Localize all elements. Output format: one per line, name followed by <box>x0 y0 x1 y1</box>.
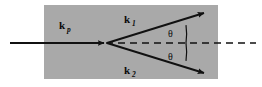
scattered-upper-wavevector-symbol: k <box>124 13 131 25</box>
theta-upper-label: θ <box>168 28 173 39</box>
diagram-canvas: k p k 1 k 2 θ θ <box>0 0 262 87</box>
scattered-lower-wavevector-symbol: k <box>124 64 131 76</box>
incident-wavevector-symbol: k <box>59 19 66 31</box>
scattered-lower-wavevector-subscript: 2 <box>131 70 136 79</box>
theta-lower-arc <box>186 43 187 61</box>
theta-lower-label: θ <box>168 51 173 62</box>
incident-wavevector-subscript: p <box>66 25 71 34</box>
scattered-upper-wavevector-subscript: 1 <box>132 19 136 28</box>
scattering-diagram-figure: k p k 1 k 2 θ θ <box>0 0 262 87</box>
theta-upper-arc <box>186 25 187 43</box>
